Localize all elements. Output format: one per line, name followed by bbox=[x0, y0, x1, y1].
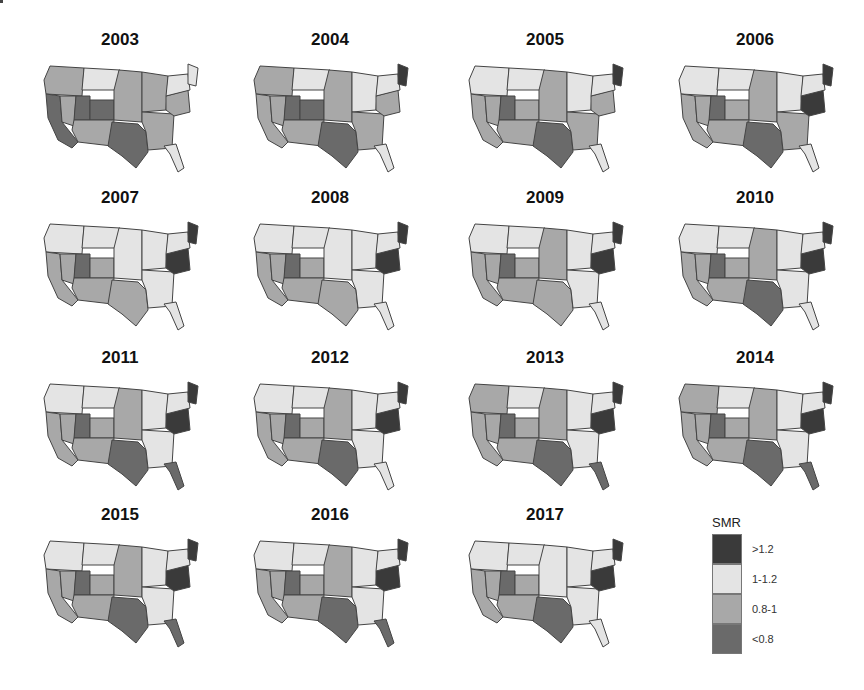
map-panel: 2007 bbox=[20, 188, 220, 348]
state-region-midwest bbox=[567, 547, 593, 587]
map-panel: 2003 bbox=[20, 30, 220, 190]
legend-item: 0.8-1 bbox=[712, 594, 777, 624]
us-map bbox=[467, 535, 627, 653]
state-region-midwest bbox=[777, 390, 803, 430]
state-region-colorado bbox=[515, 100, 539, 120]
state-region-southwest bbox=[497, 438, 539, 464]
state-region-montana bbox=[292, 543, 330, 565]
state-region-florida bbox=[164, 302, 184, 330]
state-region-montana bbox=[507, 543, 545, 565]
state-region-plains bbox=[749, 228, 777, 280]
map-panel: 2005 bbox=[445, 30, 645, 190]
state-region-utah bbox=[284, 254, 300, 278]
legend-label: 0.8-1 bbox=[752, 603, 777, 615]
map-panel: 2004 bbox=[230, 30, 430, 190]
state-region-maine bbox=[188, 539, 198, 561]
us-map bbox=[467, 378, 627, 496]
legend-swatch bbox=[712, 564, 742, 594]
state-region-maine bbox=[613, 64, 623, 86]
state-region-southwest bbox=[707, 278, 749, 304]
state-region-northwest bbox=[254, 541, 294, 571]
state-region-colorado bbox=[515, 575, 539, 595]
state-region-utah bbox=[284, 96, 300, 120]
state-region-northwest bbox=[469, 224, 509, 254]
state-region-utah bbox=[284, 414, 300, 438]
state-region-maine bbox=[613, 382, 623, 404]
state-region-colorado bbox=[90, 575, 114, 595]
map-panel: 2006 bbox=[655, 30, 855, 190]
state-region-utah bbox=[709, 254, 725, 278]
state-region-maine bbox=[823, 382, 833, 404]
state-region-midwest bbox=[352, 72, 378, 112]
us-map bbox=[42, 378, 202, 496]
state-region-midwest bbox=[567, 390, 593, 430]
map-panel: 2014 bbox=[655, 348, 855, 508]
state-region-colorado bbox=[300, 100, 324, 120]
us-map bbox=[252, 378, 412, 496]
state-region-southwest bbox=[282, 595, 324, 621]
panel-year-title: 2006 bbox=[655, 30, 855, 50]
panel-year-title: 2012 bbox=[230, 348, 430, 368]
state-region-plains bbox=[324, 545, 352, 597]
state-region-maine bbox=[398, 64, 408, 86]
state-region-utah bbox=[709, 96, 725, 120]
state-region-midwest bbox=[352, 547, 378, 587]
map-panel: 2013 bbox=[445, 348, 645, 508]
panel-year-title: 2015 bbox=[20, 505, 220, 525]
map-panel: 2009 bbox=[445, 188, 645, 348]
state-region-northwest bbox=[44, 66, 84, 96]
state-region-florida bbox=[799, 462, 819, 490]
state-region-utah bbox=[74, 96, 90, 120]
state-region-northwest bbox=[469, 384, 509, 414]
panel-year-title: 2014 bbox=[655, 348, 855, 368]
state-region-midwest bbox=[567, 230, 593, 270]
state-region-southwest bbox=[282, 278, 324, 304]
state-region-maine bbox=[188, 64, 198, 86]
legend: SMR >1.2 1-1.2 0.8-1 <0.8 bbox=[712, 515, 777, 654]
us-map bbox=[467, 218, 627, 336]
panel-year-title: 2017 bbox=[445, 505, 645, 525]
state-region-plains bbox=[114, 545, 142, 597]
state-region-texas bbox=[318, 280, 358, 326]
state-region-utah bbox=[74, 571, 90, 595]
state-region-texas bbox=[318, 597, 358, 643]
us-map bbox=[677, 378, 837, 496]
state-region-maine bbox=[613, 539, 623, 561]
state-region-midwest bbox=[142, 72, 168, 112]
state-region-maine bbox=[398, 382, 408, 404]
state-region-utah bbox=[499, 571, 515, 595]
state-region-southwest bbox=[707, 438, 749, 464]
legend-item: <0.8 bbox=[712, 624, 777, 654]
state-region-maine bbox=[613, 222, 623, 244]
state-region-florida bbox=[589, 462, 609, 490]
panel-year-title: 2005 bbox=[445, 30, 645, 50]
panel-year-title: 2007 bbox=[20, 188, 220, 208]
map-panel: 2010 bbox=[655, 188, 855, 348]
state-region-maine bbox=[188, 382, 198, 404]
state-region-utah bbox=[499, 414, 515, 438]
state-region-midwest bbox=[777, 72, 803, 112]
state-region-plains bbox=[749, 388, 777, 440]
state-region-montana bbox=[717, 386, 755, 408]
state-region-plains bbox=[324, 228, 352, 280]
state-region-florida bbox=[589, 144, 609, 172]
state-region-northwest bbox=[44, 224, 84, 254]
state-region-northwest bbox=[254, 384, 294, 414]
state-region-texas bbox=[318, 440, 358, 486]
state-region-plains bbox=[749, 70, 777, 122]
state-region-southwest bbox=[707, 120, 749, 146]
state-region-texas bbox=[533, 440, 573, 486]
state-region-florida bbox=[164, 462, 184, 490]
state-region-plains bbox=[324, 388, 352, 440]
state-region-maine bbox=[398, 222, 408, 244]
us-map bbox=[252, 60, 412, 178]
state-region-colorado bbox=[725, 418, 749, 438]
state-region-colorado bbox=[90, 258, 114, 278]
state-region-montana bbox=[507, 226, 545, 248]
us-map bbox=[252, 535, 412, 653]
state-region-plains bbox=[539, 228, 567, 280]
state-region-texas bbox=[743, 440, 783, 486]
state-region-northwest bbox=[679, 224, 719, 254]
map-panel: 2017 bbox=[445, 505, 645, 665]
state-region-southwest bbox=[497, 278, 539, 304]
